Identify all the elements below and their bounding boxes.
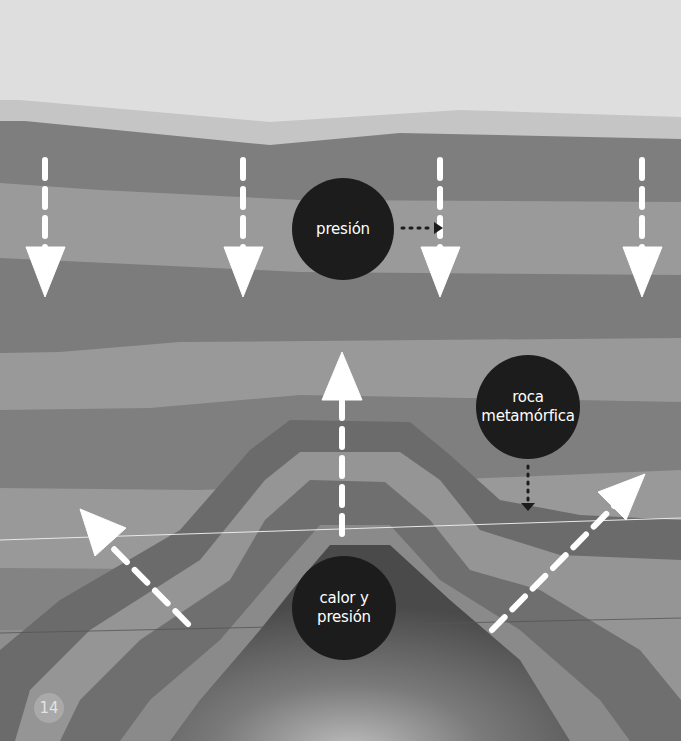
heat-pressure-label: calor y presión <box>292 556 396 660</box>
page-number: 14 <box>34 693 64 723</box>
heat-pressure-text-2: presión <box>317 608 371 627</box>
heat-pressure-text-1: calor y <box>319 589 368 608</box>
pressure-text: presión <box>316 220 370 239</box>
metamorphic-rock-text-1: roca <box>512 388 544 407</box>
rock-cycle-diagram: presión roca metamórfica calor y presión… <box>0 0 681 741</box>
metamorphic-rock-label: roca metamórfica <box>476 355 580 459</box>
pressure-label: presión <box>292 178 394 280</box>
metamorphic-rock-text-2: metamórfica <box>481 407 575 426</box>
